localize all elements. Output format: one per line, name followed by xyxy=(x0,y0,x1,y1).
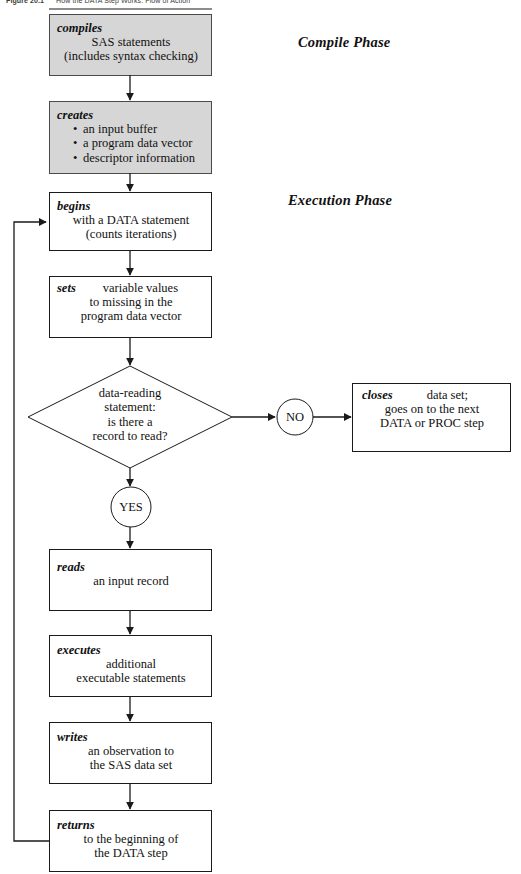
node-text-reads: reads an input record xyxy=(49,556,211,588)
node-line-returns-2: the DATA step xyxy=(57,846,205,860)
node-row-sets-first: setsvariable values xyxy=(57,281,205,295)
node-bullet-creates-2: a program data vector xyxy=(83,136,205,150)
node-text-writes: writes an observation to the SAS data se… xyxy=(49,726,211,772)
decision-text: data-reading statement: is there a recor… xyxy=(30,386,230,443)
node-text-returns: returns to the beginning of the DATA ste… xyxy=(49,814,211,860)
node-line-sets-1: variable values xyxy=(103,281,178,295)
node-line-executes-1: additional xyxy=(57,657,205,671)
node-line-executes-2: executable statements xyxy=(57,671,205,685)
connector-label-no: NO xyxy=(275,410,315,425)
node-line-begins-2: (counts iterations) xyxy=(57,227,205,241)
node-bullet-list-creates: an input buffer a program data vector de… xyxy=(83,122,205,165)
node-text-begins: begins with a DATA statement (counts ite… xyxy=(49,195,211,241)
connector-label-yes: YES xyxy=(108,500,154,515)
node-keyword-executes: executes xyxy=(57,643,205,657)
phase-label-execution: Execution Phase xyxy=(288,192,392,209)
node-text-closes: closesdata set; goes on to the next DATA… xyxy=(352,388,510,430)
node-bullet-creates-3: descriptor information xyxy=(83,151,205,165)
node-keyword-begins: begins xyxy=(57,199,205,213)
node-line-closes-3: DATA or PROC step xyxy=(362,416,502,430)
node-line-writes-2: the SAS data set xyxy=(57,758,205,772)
node-row-closes-first: closesdata set; xyxy=(362,388,502,402)
decision-line-4: record to read? xyxy=(30,429,230,443)
decision-line-1: data-reading xyxy=(30,386,230,400)
node-keyword-writes: writes xyxy=(57,730,205,744)
node-keyword-reads: reads xyxy=(57,560,205,574)
node-keyword-returns: returns xyxy=(57,818,205,832)
node-text-compiles: compiles SAS statements (includes syntax… xyxy=(49,17,211,63)
node-line-sets-3: program data vector xyxy=(57,309,205,323)
arrow-returns-loop-to-begins xyxy=(14,222,49,841)
node-line-compiles-1: SAS statements xyxy=(57,35,205,49)
node-line-sets-2: to missing in the xyxy=(57,295,205,309)
decision-line-3: is there a xyxy=(30,415,230,429)
decision-line-2: statement: xyxy=(30,400,230,414)
node-line-returns-1: to the beginning of xyxy=(57,832,205,846)
node-keyword-sets: sets xyxy=(57,281,76,295)
node-text-sets: setsvariable values to missing in the pr… xyxy=(49,281,211,323)
node-line-reads-1: an input record xyxy=(57,574,205,588)
node-line-begins-1: with a DATA statement xyxy=(57,213,205,227)
node-keyword-closes: closes xyxy=(362,388,393,402)
flowchart-figure: Figure 20.1How the DATA Step Works: Flow… xyxy=(0,0,521,874)
node-line-closes-1: data set; xyxy=(427,388,468,402)
node-keyword-creates: creates xyxy=(57,108,205,122)
node-line-closes-2: goes on to the next xyxy=(362,402,502,416)
node-line-compiles-2: (includes syntax checking) xyxy=(57,49,205,63)
node-text-executes: executes additional executable statement… xyxy=(49,639,211,685)
node-bullet-creates-1: an input buffer xyxy=(83,122,205,136)
node-keyword-compiles: compiles xyxy=(57,21,205,35)
node-text-creates: creates an input buffer a program data v… xyxy=(49,104,211,165)
phase-label-compile: Compile Phase xyxy=(298,34,390,51)
node-line-writes-1: an observation to xyxy=(57,744,205,758)
